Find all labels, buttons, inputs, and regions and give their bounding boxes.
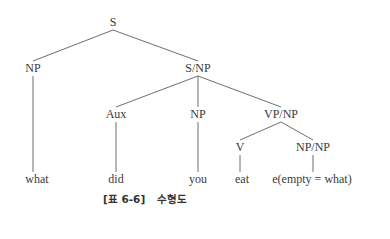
caption-title: 수형도 <box>157 193 187 205</box>
tree-edge-snp-vpnp <box>198 76 281 107</box>
tree-node-npnp: NP/NP <box>296 140 330 154</box>
figure-caption: [표 6-6]수형도 <box>103 191 187 206</box>
tree-node-aux: Aux <box>106 107 127 121</box>
tree-node-np1: NP <box>25 61 41 75</box>
tree-edge-s-np1 <box>33 30 113 61</box>
leaf-word-empty: e(empty = what) <box>272 172 351 186</box>
leaf-word-eat: eat <box>235 172 250 186</box>
tree-edge-snp-aux <box>116 76 198 107</box>
tree-node-snp: S/NP <box>185 61 211 75</box>
tree-edge-s-snp <box>113 30 198 61</box>
leaf-word-you: you <box>189 172 207 186</box>
leaf-word-what: what <box>25 172 49 186</box>
tree-node-v: V <box>236 140 245 154</box>
tree-node-s: S <box>110 15 117 29</box>
tree-edge-vpnp-v <box>240 122 281 140</box>
tree-node-vpnp: VP/NP <box>264 107 298 121</box>
caption-number: [표 6-6] <box>103 193 145 205</box>
syntax-tree: SNPS/NPAuxNPVP/NPVNP/NPwhatdidyoueate(em… <box>0 0 390 239</box>
tree-edge-vpnp-npnp <box>281 122 313 140</box>
leaf-word-did: did <box>108 172 123 186</box>
tree-node-np2: NP <box>190 107 206 121</box>
